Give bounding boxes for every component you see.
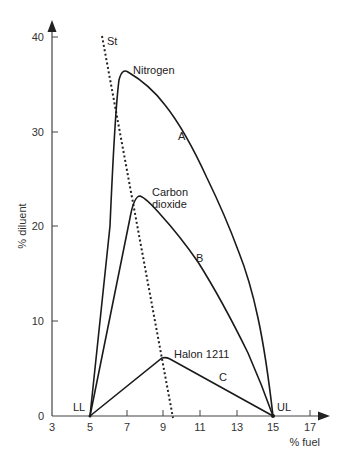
ll-label: LL: [73, 401, 85, 413]
x-tick-label: 15: [267, 421, 279, 433]
carbon-label: Carbon: [152, 186, 188, 198]
x-tick-label: 3: [49, 421, 55, 433]
x-tick-label: 5: [87, 421, 93, 433]
x-tick-label: 7: [124, 421, 130, 433]
st-label: St: [107, 35, 117, 47]
y-tick-label: 40: [32, 31, 44, 43]
ll-point: [89, 415, 92, 418]
curve-b-carbon-dioxide: [90, 196, 273, 416]
flammability-chart: 0 10 20 30 40 3 5 7 9 11 13 15 17 % fuel…: [0, 0, 343, 463]
curve-b-label: B: [196, 252, 203, 264]
y-tick-label: 30: [32, 126, 44, 138]
y-ticks: [52, 37, 58, 321]
x-axis-arrow-icon: [318, 412, 330, 421]
y-axis-title: % diluent: [16, 203, 28, 248]
ul-point: [271, 414, 275, 418]
ul-label: UL: [277, 401, 291, 413]
x-tick-label: 17: [304, 421, 316, 433]
curve-a-nitrogen: [90, 71, 273, 416]
curve-c-halon-1211: [90, 358, 273, 416]
curve-c-label: C: [219, 371, 227, 383]
y-tick-label: 10: [32, 315, 44, 327]
x-tick-label: 9: [160, 421, 166, 433]
halon-label: Halon 1211: [174, 348, 229, 360]
dioxide-label: dioxide: [152, 198, 187, 210]
curve-a-label: A: [178, 130, 186, 142]
y-tick-label: 0: [38, 410, 44, 422]
x-tick-label: 13: [231, 421, 243, 433]
nitrogen-label: Nitrogen: [133, 64, 175, 76]
y-axis-arrow-icon: [48, 20, 57, 32]
x-tick-label: 11: [194, 421, 205, 433]
y-tick-label: 20: [32, 220, 44, 232]
x-axis-title: % fuel: [289, 436, 320, 448]
stoichiometric-line: [102, 36, 173, 418]
